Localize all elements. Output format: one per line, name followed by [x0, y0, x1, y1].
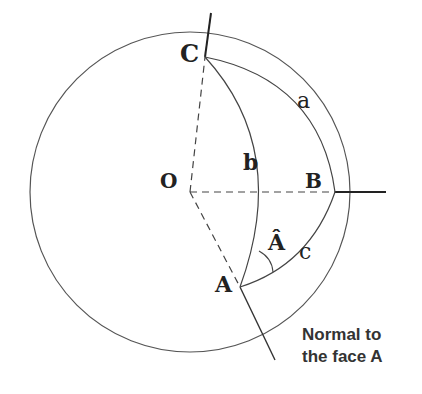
caption-line1: Normal to	[302, 325, 381, 344]
label-c: C	[180, 39, 199, 68]
radius-oc	[190, 57, 205, 192]
normal-c	[205, 13, 211, 57]
arc-c	[240, 192, 335, 287]
label-side-b: b	[243, 149, 258, 175]
label-a: A	[214, 271, 233, 297]
caption-line2: the face A	[302, 347, 383, 366]
label-b: B	[305, 169, 322, 193]
normal-a	[240, 287, 275, 360]
spherical-triangle-diagram: C O B A a b c Â Normal to the face A	[0, 0, 422, 394]
label-side-a: a	[297, 88, 310, 113]
label-side-c: c	[299, 239, 311, 264]
label-o: O	[160, 169, 177, 193]
label-angle-a: Â	[267, 229, 286, 255]
